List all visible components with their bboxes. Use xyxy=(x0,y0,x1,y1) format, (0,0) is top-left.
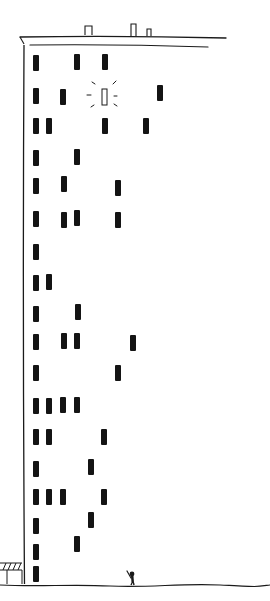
chimney-icon xyxy=(85,26,92,35)
ground-line xyxy=(0,585,270,587)
dark-window xyxy=(101,429,107,445)
dark-window xyxy=(46,489,52,505)
waving-person-figure xyxy=(127,571,134,585)
dark-window xyxy=(74,397,80,413)
dark-window xyxy=(33,118,39,134)
dark-window xyxy=(74,333,80,349)
awning-stripe xyxy=(18,563,21,570)
roof-outer-line xyxy=(20,36,226,38)
dark-window xyxy=(60,89,66,105)
dark-window xyxy=(88,459,94,475)
figure-body xyxy=(131,576,134,583)
dark-window xyxy=(74,54,80,70)
dark-window xyxy=(33,518,39,534)
wall-line xyxy=(23,45,24,584)
dark-window xyxy=(61,333,67,349)
dark-window xyxy=(46,398,52,414)
light-ray-icon xyxy=(91,105,94,107)
dark-window xyxy=(60,397,66,413)
light-ray-icon xyxy=(114,104,117,106)
lit-window xyxy=(87,81,117,107)
roof-corner xyxy=(20,37,24,44)
awning-stripe xyxy=(8,563,11,570)
dark-window xyxy=(33,150,39,166)
light-ray-icon xyxy=(113,81,116,84)
dark-window xyxy=(115,180,121,196)
building-illustration xyxy=(0,0,270,601)
chimneys xyxy=(85,24,151,36)
roof xyxy=(20,36,226,47)
dark-window xyxy=(74,536,80,552)
roof-inner-line xyxy=(30,45,208,47)
dark-window xyxy=(74,149,80,165)
light-ray-icon xyxy=(92,82,95,84)
dark-window xyxy=(102,54,108,70)
dark-window xyxy=(46,118,52,134)
dark-window xyxy=(102,118,108,134)
lit-window-frame xyxy=(102,89,107,105)
dark-window xyxy=(115,212,121,228)
dark-window xyxy=(46,274,52,290)
dark-window xyxy=(46,429,52,445)
dark-window xyxy=(33,211,39,227)
dark-window xyxy=(101,489,107,505)
dark-window xyxy=(33,365,39,381)
dark-window xyxy=(33,55,39,71)
dark-window xyxy=(130,335,136,351)
dark-window xyxy=(75,304,81,320)
figure-leg xyxy=(134,583,135,585)
dark-window xyxy=(88,512,94,528)
dark-window xyxy=(33,489,39,505)
dark-window xyxy=(33,461,39,477)
chimney-icon xyxy=(147,29,151,36)
dark-window xyxy=(33,178,39,194)
dark-window xyxy=(33,544,39,560)
figure-leg xyxy=(131,583,132,585)
awning-stripe xyxy=(3,563,6,570)
dark-window xyxy=(33,306,39,322)
dark-window xyxy=(33,566,39,582)
dark-window xyxy=(33,244,39,260)
building-left-wall xyxy=(23,45,24,584)
dark-window xyxy=(33,398,39,414)
dark-window xyxy=(33,88,39,104)
chimney-icon xyxy=(131,24,136,36)
dark-window xyxy=(157,85,163,101)
dark-window xyxy=(143,118,149,134)
windows xyxy=(33,54,163,582)
illustration-canvas xyxy=(0,0,270,601)
dark-window xyxy=(33,275,39,291)
dark-window xyxy=(74,210,80,226)
dark-window xyxy=(61,212,67,228)
awning-stripe xyxy=(13,563,16,570)
dark-window xyxy=(33,429,39,445)
dark-window xyxy=(61,176,67,192)
shop-awning xyxy=(0,563,22,584)
dark-window xyxy=(115,365,121,381)
dark-window xyxy=(60,489,66,505)
dark-window xyxy=(33,334,39,350)
ground-path xyxy=(0,585,270,587)
